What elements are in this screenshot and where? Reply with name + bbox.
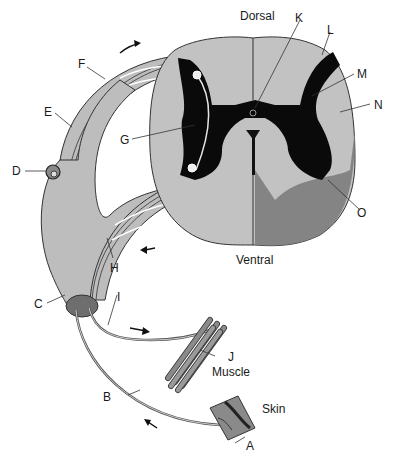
label-e: E <box>44 105 52 119</box>
label-b: B <box>103 390 111 404</box>
label-g: G <box>120 133 129 147</box>
label-i: I <box>117 290 120 304</box>
label-f: F <box>78 57 85 71</box>
label-a: A <box>246 439 254 453</box>
motor-neuron-body <box>188 164 196 172</box>
label-ventral: Ventral <box>236 253 273 267</box>
label-c: C <box>34 297 43 311</box>
label-dorsal: Dorsal <box>240 9 275 23</box>
label-j: J <box>228 350 234 364</box>
spinal-reflex-diagram: Dorsal Ventral Muscle Skin A B C D E F G… <box>0 0 395 466</box>
label-l: L <box>327 23 334 37</box>
spinal-cord <box>150 37 355 246</box>
label-h: H <box>110 261 119 275</box>
label-d: D <box>12 164 21 178</box>
muscle-fibers <box>168 320 224 390</box>
sensory-neuron-body <box>193 71 201 79</box>
spinal-nerve-trunk <box>66 295 98 317</box>
dorsal-root-ganglion <box>46 165 60 179</box>
label-k: K <box>295 11 303 25</box>
label-n: N <box>374 98 383 112</box>
label-o: O <box>357 206 366 220</box>
skin-patch <box>210 396 255 440</box>
label-m: M <box>357 67 367 81</box>
label-muscle: Muscle <box>212 365 250 379</box>
label-skin: Skin <box>262 402 285 416</box>
